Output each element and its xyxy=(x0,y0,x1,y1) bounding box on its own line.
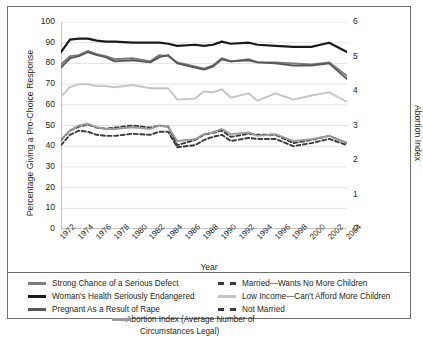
y-tick-left: 90 xyxy=(29,37,55,47)
y-tick-right: 3 xyxy=(353,120,373,130)
y-tick-right: 2 xyxy=(353,154,373,164)
plot-area xyxy=(61,22,347,229)
legend-swatch-icon xyxy=(112,318,130,321)
y-tick-left: 80 xyxy=(29,57,55,67)
legend-item[interactable]: Low Income—Can't Afford More Children xyxy=(218,290,390,303)
legend-divider xyxy=(7,272,411,273)
legend-item[interactable]: Married—Wants No More Children xyxy=(218,277,390,290)
legend-item-label-line2: Circumstances Legal) xyxy=(112,326,255,339)
legend-item-label: Married—Wants No More Children xyxy=(242,279,367,288)
legend-abortion-index: Abortion Index (Average Number ofCircums… xyxy=(112,313,255,339)
y-tick-left: 0 xyxy=(29,223,55,233)
chart-svg xyxy=(61,22,347,229)
legend-swatch-icon xyxy=(218,282,236,285)
chart-series-line xyxy=(61,84,347,102)
y-tick-right: 5 xyxy=(353,51,373,61)
y-tick-left: 60 xyxy=(29,99,55,109)
legend-column-left: Strong Chance of a Serious DefectWoman's… xyxy=(28,277,195,316)
legend-swatch-icon xyxy=(28,295,46,298)
legend-item-label: Low Income—Can't Afford More Children xyxy=(242,292,390,301)
legend-swatch-icon xyxy=(28,308,46,311)
y-tick-left: 70 xyxy=(29,78,55,88)
legend-item[interactable]: Strong Chance of a Serious Defect xyxy=(28,277,195,290)
legend-item[interactable]: Abortion Index (Average Number of xyxy=(112,313,255,326)
y-tick-left: 50 xyxy=(29,120,55,130)
y-tick-right: 4 xyxy=(353,85,373,95)
y-tick-left: 10 xyxy=(29,202,55,212)
legend-swatch-icon xyxy=(218,295,236,298)
y-tick-left: 30 xyxy=(29,161,55,171)
y-tick-right: 1 xyxy=(353,189,373,199)
y-tick-right: 6 xyxy=(353,16,373,26)
legend-item-label: Abortion Index (Average Number of xyxy=(126,315,255,324)
legend-swatch-icon xyxy=(28,282,46,285)
x-axis-title: Year xyxy=(0,262,418,272)
legend-item-label: Strong Chance of a Serious Defect xyxy=(52,279,179,288)
chart-series-line xyxy=(61,39,347,52)
legend-item-label: Woman's Health Seriously Endangered xyxy=(52,292,195,301)
legend-column-right: Married—Wants No More ChildrenLow Income… xyxy=(218,277,390,316)
y-tick-left: 100 xyxy=(29,16,55,26)
y-axis-right-title: Abortion Index xyxy=(413,33,423,233)
y-tick-left: 40 xyxy=(29,140,55,150)
legend-item[interactable]: Woman's Health Seriously Endangered xyxy=(28,290,195,303)
chart-series-line xyxy=(61,52,347,79)
legend-swatch-icon xyxy=(218,308,236,311)
y-tick-left: 20 xyxy=(29,182,55,192)
